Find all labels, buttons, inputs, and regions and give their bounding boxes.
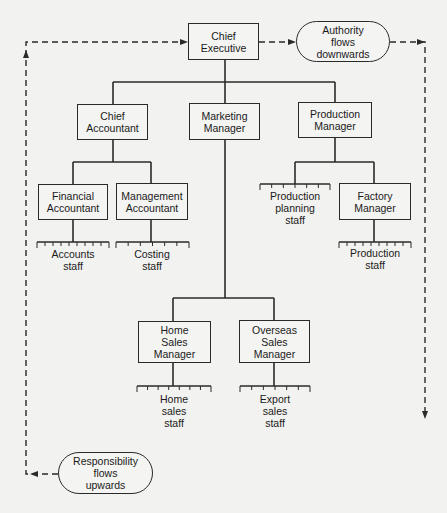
node-marketing-manager: Marketing Manager [189, 103, 260, 140]
arrowhead-to-authority-oval [288, 39, 296, 45]
authority-flow-label: Authority flows downwards [296, 21, 390, 62]
node-management-accountant: Management Accountant [116, 183, 188, 220]
node-financial-accountant: Financial Accountant [38, 184, 108, 220]
staff-accounts: Accounts staff [33, 248, 113, 272]
comb-home-sales-staff [137, 386, 211, 392]
staff-export-sales: Export sales staff [235, 393, 315, 429]
staff-costing: Costing staff [112, 248, 192, 272]
responsibility-flow-label: Responsibility flows upwards [58, 452, 153, 494]
staff-production-planning: Production planning staff [255, 190, 335, 226]
arrowhead-right-corner [417, 39, 425, 45]
node-factory-manager: Factory Manager [339, 183, 411, 220]
arrowhead-down [422, 411, 428, 419]
arrowhead-up [23, 50, 29, 58]
arrowhead-left [30, 471, 38, 477]
node-chief-accountant: Chief Accountant [77, 104, 148, 140]
node-overseas-sales-manager: Overseas Sales Manager [239, 320, 310, 363]
staff-home-sales: Home sales staff [134, 393, 214, 429]
node-chief-executive: Chief Executive [188, 23, 259, 60]
staff-production: Production staff [335, 247, 415, 271]
authority-flow-line-down [390, 42, 425, 412]
comb-export-sales-staff [240, 386, 310, 392]
node-home-sales-manager: Home Sales Manager [138, 321, 211, 363]
node-production-manager: Production Manager [298, 102, 372, 138]
arrowhead-to-chief-executive [180, 39, 188, 45]
